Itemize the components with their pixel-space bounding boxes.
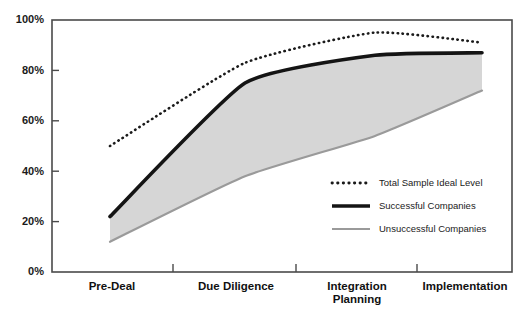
chart-svg: 0%20%40%60%80%100% Pre-DealDue Diligence… — [0, 0, 526, 320]
y-axis-tick-label: 20% — [22, 215, 44, 227]
y-axis-tick-label: 80% — [22, 64, 44, 76]
x-axis-tick-label: IntegrationPlanning — [327, 280, 386, 305]
y-axis-tick-label: 60% — [22, 114, 44, 126]
legend-item-label: Unsuccessful Companies — [379, 223, 486, 234]
legend-item-label: Successful Companies — [379, 200, 476, 211]
x-axis-tick-label: Due Diligence — [198, 280, 274, 292]
y-axis-tick-label: 40% — [22, 165, 44, 177]
x-axis-tick-label: Pre-Deal — [89, 280, 136, 292]
chart-container: 0%20%40%60%80%100% Pre-DealDue Diligence… — [0, 0, 526, 320]
y-axis-tick-label: 100% — [16, 13, 44, 25]
y-axis-tick-label: 0% — [28, 265, 44, 277]
x-axis-tick-label: Implementation — [423, 280, 508, 292]
legend-item-label: Total Sample Ideal Level — [379, 177, 483, 188]
